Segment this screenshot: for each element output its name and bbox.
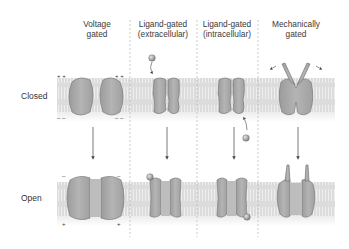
plus-charge-left: +: [62, 221, 66, 227]
voltage-channel-open: [67, 176, 124, 219]
stretch-arrows-icon: [271, 66, 321, 69]
minus-charge-left: –: [62, 173, 66, 179]
ligand-extra-channel-open: [150, 178, 181, 217]
mechanical-channel-open: [277, 165, 315, 217]
ligand-binding-arrow: [151, 62, 153, 73]
plus-charge-right: +: [117, 221, 121, 227]
minus-charges-right: – –: [115, 115, 124, 121]
intracellular-ligand-bound-icon: [244, 214, 251, 221]
ligand-intra-channel-open: [217, 178, 247, 217]
plus-charges-right: + +: [115, 73, 124, 79]
transition-arrows: [93, 127, 298, 158]
intracellular-ligand-ball-icon: [243, 135, 250, 142]
plus-charges-left: + +: [57, 73, 66, 79]
minus-charges-left: – –: [57, 115, 66, 121]
minus-charge-right: –: [117, 173, 121, 179]
ligand-bound-ball-icon: [147, 174, 154, 181]
ligand-ball-icon: [149, 55, 156, 62]
